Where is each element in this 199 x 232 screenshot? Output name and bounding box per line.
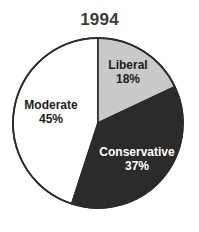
pie-label-moderate-value: 45% [12, 112, 90, 126]
pie-label-moderate: Moderate 45% [12, 98, 90, 126]
pie-label-conservative: Conservative 37% [85, 145, 189, 173]
pie-label-liberal-value: 18% [96, 72, 160, 86]
pie-label-liberal-name: Liberal [96, 58, 160, 72]
pie-label-conservative-value: 37% [85, 159, 189, 173]
pie-label-moderate-name: Moderate [12, 98, 90, 112]
pie-chart-figure: 1994 Liberal 18% Conservative 37% Modera… [0, 0, 199, 232]
pie-label-liberal: Liberal 18% [96, 58, 160, 86]
pie-label-conservative-name: Conservative [85, 145, 189, 159]
